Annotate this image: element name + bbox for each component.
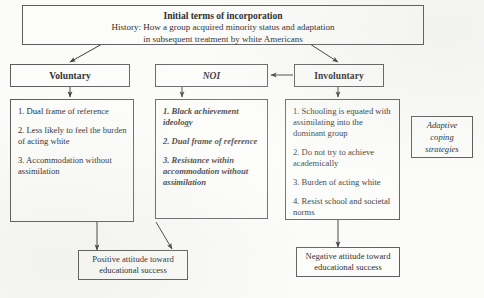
involuntary-trait-4: 4. Resist school and societal norms bbox=[293, 196, 393, 218]
noi-trait-3: 3. Resistance within accommodation witho… bbox=[163, 155, 261, 188]
involuntary-trait-1: 1. Schooling is equated with assimilatin… bbox=[293, 106, 393, 139]
connector-title-to-involuntary bbox=[310, 44, 338, 62]
initial-terms-line-3: in subsequent treatment by white America… bbox=[29, 34, 417, 46]
noi-trait-1: 1. Black achievement ideology bbox=[163, 106, 261, 128]
noi-header-label: NOI bbox=[203, 71, 221, 81]
negative-outcome-label: Negative attitude toward educational suc… bbox=[301, 251, 395, 274]
involuntary-header-label: Involuntary bbox=[314, 71, 364, 81]
connector-noi-to-positive bbox=[156, 222, 172, 249]
noi-header-box: NOI bbox=[155, 64, 268, 87]
voluntary-header-label: Voluntary bbox=[49, 71, 91, 81]
positive-outcome-label: Positive attitude toward educational suc… bbox=[83, 254, 183, 277]
voluntary-trait-2: 2. Less likely to feel the burden of act… bbox=[18, 125, 127, 147]
voluntary-traits-box: 1. Dual frame of reference 2. Less likel… bbox=[10, 99, 134, 222]
flowchart-diagram: Initial terms of incorporation History: … bbox=[0, 0, 484, 298]
involuntary-trait-2: 2. Do not try to achieve academically bbox=[293, 147, 393, 169]
adaptive-coping-strategies-box: Adaptive coping strategies bbox=[411, 116, 473, 158]
involuntary-traits-box: 1. Schooling is equated with assimilatin… bbox=[285, 99, 400, 220]
adaptive-note-line-3: strategies bbox=[425, 143, 458, 155]
adaptive-note-line-2: coping bbox=[425, 131, 458, 143]
noi-trait-2: 2. Dual frame of reference bbox=[163, 136, 261, 147]
noi-traits-box: 1. Black achievement ideology 2. Dual fr… bbox=[155, 99, 268, 219]
adaptive-note-line-1: Adaptive bbox=[425, 119, 458, 131]
initial-terms-heading: Initial terms of incorporation bbox=[29, 10, 417, 22]
involuntary-header-box: Involuntary bbox=[294, 64, 384, 87]
involuntary-trait-3: 3. Burden of acting white bbox=[293, 177, 393, 188]
voluntary-trait-1: 1. Dual frame of reference bbox=[18, 106, 127, 117]
negative-outcome-box: Negative attitude toward educational suc… bbox=[296, 247, 400, 277]
voluntary-trait-3: 3. Accommodation without assimilation bbox=[18, 155, 127, 177]
initial-terms-box: Initial terms of incorporation History: … bbox=[22, 5, 424, 45]
positive-outcome-box: Positive attitude toward educational suc… bbox=[78, 250, 188, 280]
voluntary-header-box: Voluntary bbox=[10, 64, 130, 87]
initial-terms-line-2: History: How a group acquired minority s… bbox=[29, 22, 417, 34]
connector-title-to-voluntary bbox=[70, 44, 102, 62]
